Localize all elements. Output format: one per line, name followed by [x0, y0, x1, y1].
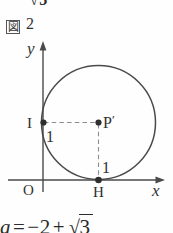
formula-plus: + — [53, 215, 65, 233]
formula-variable: a — [0, 215, 11, 233]
formula-two: 2 — [40, 215, 51, 233]
y-axis-label: y — [25, 39, 35, 58]
geometry-diagram: y x O I P′ H 1 1 — [0, 32, 173, 197]
x-axis-label: x — [151, 181, 160, 197]
origin-label: O — [23, 182, 34, 197]
point-Pprime-prime-mark: ′ — [112, 112, 115, 127]
point-Pprime-dot — [95, 119, 101, 125]
point-Pprime-label: P′ — [103, 112, 115, 131]
formula-radicand: 3 — [79, 214, 93, 233]
measure-label-vertical: 1 — [102, 159, 110, 176]
point-H-label: H — [93, 184, 104, 197]
point-H-dot — [95, 177, 102, 184]
formula-minus: − — [27, 215, 39, 233]
measure-label-horizontal: 1 — [46, 128, 54, 145]
sqrt-value-top: 3 — [39, 0, 48, 8]
figure-page: √3 図2 y x O I P′ H — [0, 0, 173, 233]
point-I-dot — [40, 119, 46, 125]
bottom-formula: a=−2+√3 — [0, 214, 93, 233]
y-axis-arrowhead — [40, 41, 47, 51]
point-I-label: I — [27, 115, 32, 131]
sqrt-symbol-top: √ — [30, 0, 39, 8]
point-Pprime-letter: P — [103, 114, 112, 131]
formula-equals: = — [13, 215, 25, 233]
figure-number: 2 — [26, 15, 34, 32]
formula-sqrt-group: √3 — [67, 214, 92, 233]
top-formula-fragment: √3 — [30, 0, 48, 9]
